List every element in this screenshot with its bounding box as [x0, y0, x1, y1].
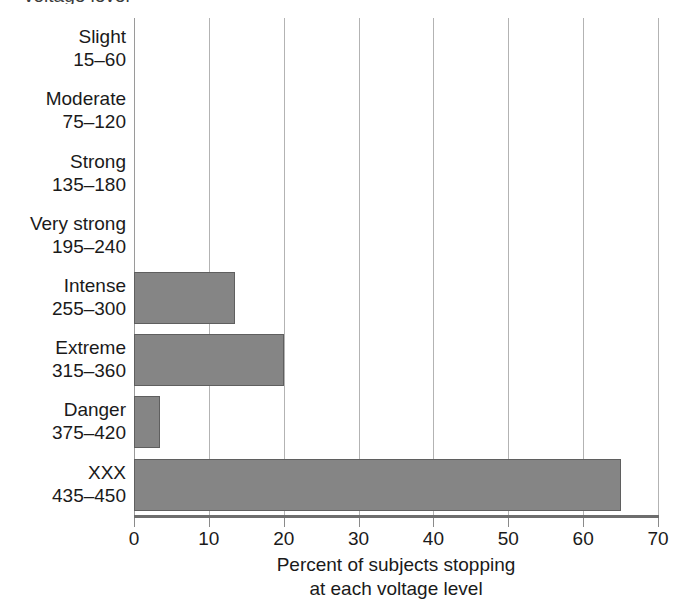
category-label-xxx: XXX435–450	[0, 461, 126, 507]
bar-row	[134, 148, 658, 200]
category-label-range: 195–240	[0, 235, 126, 258]
x-tick-label-70: 70	[647, 527, 668, 550]
category-label-slight: Slight15–60	[0, 25, 126, 71]
gridline-70	[658, 18, 659, 516]
x-axis-title-line-2: at each voltage level	[134, 577, 658, 601]
category-label-name: Very strong	[0, 212, 126, 235]
category-label-very-strong: Very strong195–240	[0, 212, 126, 258]
category-label-name: Moderate	[0, 87, 126, 110]
category-label-range: 75–120	[0, 110, 126, 133]
x-tick-label-0: 0	[129, 527, 140, 550]
category-label-range: 135–180	[0, 173, 126, 196]
category-label-moderate: Moderate75–120	[0, 87, 126, 133]
x-axis-title-line-1: Percent of subjects stopping	[134, 553, 658, 577]
category-label-name: Danger	[0, 398, 126, 421]
category-label-name: Strong	[0, 150, 126, 173]
category-label-danger: Danger375–420	[0, 398, 126, 444]
bar-row	[134, 272, 658, 324]
bar-row	[134, 85, 658, 137]
plot-area	[134, 18, 658, 516]
category-axis-labels: Slight15–60Moderate75–120Strong135–180Ve…	[0, 0, 126, 606]
category-label-name: Intense	[0, 274, 126, 297]
x-tick-label-50: 50	[498, 527, 519, 550]
x-tick-label-30: 30	[348, 527, 369, 550]
x-tick-30	[359, 518, 360, 527]
category-label-intense: Intense255–300	[0, 274, 126, 320]
bar-chart: voltage level Slight15–60Moderate75–120S…	[0, 0, 676, 606]
x-tick-70	[658, 518, 659, 527]
bar-danger	[134, 396, 160, 448]
x-tick-40	[433, 518, 434, 527]
x-tick-60	[583, 518, 584, 527]
category-label-range: 375–420	[0, 421, 126, 444]
bar-extreme	[134, 334, 284, 386]
category-label-strong: Strong135–180	[0, 150, 126, 196]
x-axis-line	[134, 515, 659, 518]
bar-row	[134, 396, 658, 448]
x-tick-label-20: 20	[273, 527, 294, 550]
category-label-range: 315–360	[0, 359, 126, 382]
bar-intense	[134, 272, 235, 324]
x-tick-label-60: 60	[573, 527, 594, 550]
x-tick-50	[508, 518, 509, 527]
x-tick-label-40: 40	[423, 527, 444, 550]
bar-row	[134, 334, 658, 386]
category-label-name: Slight	[0, 25, 126, 48]
x-axis-title: Percent of subjects stopping at each vol…	[134, 553, 658, 601]
category-label-name: XXX	[0, 461, 126, 484]
x-tick-label-10: 10	[198, 527, 219, 550]
x-tick-20	[284, 518, 285, 527]
bar-xxx	[134, 459, 621, 511]
x-tick-0	[134, 518, 135, 527]
category-label-range: 435–450	[0, 484, 126, 507]
category-label-range: 255–300	[0, 297, 126, 320]
category-label-range: 15–60	[0, 48, 126, 71]
category-label-name: Extreme	[0, 336, 126, 359]
bar-row	[134, 459, 658, 511]
bar-row	[134, 23, 658, 75]
bar-row	[134, 210, 658, 262]
x-tick-10	[209, 518, 210, 527]
category-label-extreme: Extreme315–360	[0, 336, 126, 382]
